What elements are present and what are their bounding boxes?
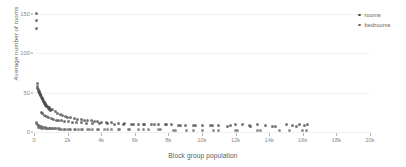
data-point	[298, 123, 301, 126]
data-point	[88, 128, 91, 131]
data-point	[106, 122, 109, 125]
data-point	[201, 129, 204, 132]
data-point	[35, 12, 38, 15]
data-point	[179, 124, 182, 127]
data-point	[305, 129, 308, 132]
data-point	[165, 123, 168, 126]
data-point	[274, 125, 277, 128]
data-point	[194, 124, 197, 127]
data-point	[306, 123, 309, 126]
x-tick-label: 18k	[332, 137, 341, 143]
data-point	[217, 129, 220, 132]
x-tick-mark	[269, 133, 270, 136]
x-tick-mark	[68, 133, 69, 136]
data-point	[153, 123, 156, 126]
y-tick-mark	[31, 132, 34, 133]
x-tick-label: 12k	[231, 137, 240, 143]
data-point	[63, 120, 66, 123]
chart-legend: rooms bedrooms	[358, 12, 390, 32]
x-tick-mark	[34, 133, 35, 136]
data-point	[295, 125, 298, 128]
data-point	[211, 124, 214, 127]
x-tick-mark	[168, 133, 169, 136]
x-tick-label: 6k	[132, 137, 138, 143]
data-point	[67, 120, 70, 123]
data-point	[184, 124, 187, 127]
legend-marker-bedrooms	[358, 24, 361, 27]
legend-item-bedrooms[interactable]: bedrooms	[358, 22, 390, 28]
data-point	[212, 129, 215, 132]
x-axis-label: Block group population	[0, 152, 406, 159]
y-tick-mark	[31, 53, 34, 54]
x-tick-mark	[370, 133, 371, 136]
x-tick-mark	[135, 133, 136, 136]
x-tick-mark	[236, 133, 237, 136]
scatter-chart: Average number of rooms Block group popu…	[0, 0, 406, 167]
data-point	[98, 122, 101, 125]
x-tick-label: 10k	[197, 137, 206, 143]
data-point	[91, 122, 94, 125]
data-point	[234, 129, 237, 132]
y-tick-mark	[31, 92, 34, 93]
data-point	[147, 128, 150, 131]
data-point	[256, 123, 259, 126]
data-point	[85, 122, 88, 125]
data-point	[291, 124, 294, 127]
data-point	[285, 123, 288, 126]
data-point	[74, 128, 77, 131]
x-tick-mark	[202, 133, 203, 136]
legend-label-rooms: rooms	[365, 12, 381, 18]
x-tick-mark	[336, 133, 337, 136]
data-point	[117, 122, 120, 125]
gridline-y	[34, 53, 370, 54]
x-tick-label: 16k	[298, 137, 307, 143]
data-point	[157, 123, 160, 126]
y-tick-label: 0	[27, 129, 30, 135]
data-point	[80, 121, 83, 124]
data-point	[117, 128, 120, 131]
data-point	[137, 123, 140, 126]
data-point	[128, 128, 131, 131]
x-tick-label: 20k	[365, 137, 374, 143]
data-point	[234, 123, 237, 126]
y-tick-label: 50	[24, 90, 30, 96]
data-point	[122, 123, 125, 126]
data-point	[170, 123, 173, 126]
legend-item-rooms[interactable]: rooms	[358, 12, 390, 18]
data-point	[110, 128, 113, 131]
y-tick-mark	[31, 13, 34, 14]
data-point	[229, 124, 232, 127]
data-point	[71, 121, 74, 124]
data-point	[192, 129, 195, 132]
data-point	[271, 125, 274, 128]
data-point	[35, 27, 38, 30]
x-tick-label: 0	[32, 137, 35, 143]
data-point	[217, 124, 220, 127]
data-point	[264, 124, 267, 127]
legend-label-bedrooms: bedrooms	[365, 22, 391, 28]
legend-marker-rooms	[358, 14, 361, 17]
x-tick-label: 8k	[165, 137, 171, 143]
data-point	[278, 129, 281, 132]
data-point	[137, 128, 140, 131]
data-point	[68, 128, 71, 131]
x-tick-label: 4k	[98, 137, 104, 143]
x-tick-label: 2k	[65, 137, 71, 143]
data-point	[174, 129, 177, 132]
plot-area: 05010015002k4k6k8k10k12k14k16k18k20k	[34, 6, 370, 132]
data-point	[249, 125, 252, 128]
data-point	[91, 128, 94, 131]
data-point	[142, 123, 145, 126]
y-tick-label: 150	[20, 11, 30, 17]
x-tick-mark	[303, 133, 304, 136]
data-point	[132, 123, 135, 126]
data-point	[113, 123, 116, 126]
data-point	[35, 19, 38, 22]
x-tick-label: 14k	[265, 137, 274, 143]
data-point	[142, 128, 145, 131]
data-point	[288, 129, 291, 132]
data-point	[75, 121, 78, 124]
gridline-y	[34, 93, 370, 94]
data-point	[241, 123, 244, 126]
data-point	[106, 128, 109, 131]
